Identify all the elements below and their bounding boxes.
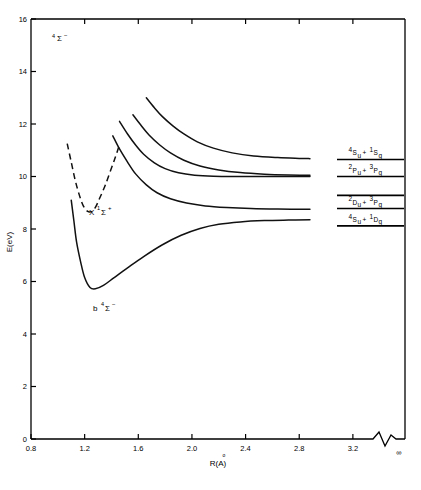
limit-plus-sign: +: [363, 199, 367, 206]
y-tick-label: 2: [23, 382, 27, 391]
limit-right-term: P: [374, 199, 378, 206]
x-axis-title-group: R(A) o: [210, 452, 227, 468]
quartet-state-curve-label: b 4 Σ −: [93, 301, 116, 313]
ground-label-term: Σ: [101, 208, 106, 217]
state-label-term: Σ: [57, 34, 62, 43]
limit-left-term: P: [353, 167, 357, 174]
x-tick-label: 2.0: [187, 444, 197, 453]
y-tick-label: 0: [23, 435, 27, 444]
state-label-charge: −: [64, 32, 68, 38]
ground-label-superscript: 1: [97, 205, 100, 211]
y-tick-label: 6: [23, 277, 27, 286]
limit-plus-sign: +: [363, 216, 367, 223]
potential-energy-figure: 0246810121416 0.81.21.62.02.42.83.2 4Su+…: [0, 0, 421, 490]
x-axis-ticks: [31, 434, 353, 439]
quartet-label-prefix: b: [93, 304, 98, 313]
y-tick-label: 12: [19, 120, 27, 129]
limit-right-subscript: g: [379, 201, 383, 209]
plot-frame: [31, 19, 405, 446]
y-axis-tick-labels: 0246810121416: [19, 15, 27, 444]
ground-label-prefix: X: [89, 208, 95, 217]
curve-b-4: [71, 200, 310, 289]
y-tick-label: 14: [19, 67, 27, 76]
ground-label-charge: +: [108, 205, 112, 211]
curve-repulsive-4: [146, 98, 310, 159]
figure-svg: 0246810121416 0.81.21.62.02.42.83.2 4Su+…: [0, 0, 421, 490]
quartet-label-charge: −: [112, 301, 116, 307]
angstrom-ring-glyph: o: [223, 452, 226, 458]
x-tick-label: 0.8: [26, 444, 36, 453]
curve-x-1: [67, 144, 119, 212]
ground-state-curve-label: X 1 Σ +: [89, 205, 112, 217]
limit-left-subscript: u: [358, 169, 362, 176]
limit-right-subscript: g: [379, 152, 383, 160]
dissociation-level-label: 2Du+3Pg: [349, 195, 383, 208]
y-axis-title: E(eV): [5, 231, 14, 252]
dissociation-level-label: 4Su+1Dg: [349, 213, 383, 226]
quartet-label-superscript: 4: [101, 301, 104, 307]
limit-right-subscript: g: [379, 218, 383, 226]
limit-left-subscript: u: [358, 201, 362, 208]
limit-right-term: P: [374, 167, 378, 174]
x-tick-label: 1.2: [79, 444, 89, 453]
y-tick-label: 8: [23, 225, 27, 234]
limit-right-subscript: g: [379, 169, 383, 177]
y-tick-label: 10: [19, 172, 27, 181]
x-tick-label: 2.4: [240, 444, 250, 453]
dissociation-level-label: 2Pu+3Pg: [349, 163, 383, 176]
state-label-group: 4 Σ −: [52, 32, 68, 43]
dissociation-limit-labels: 4Su+1Sg2Pu+3Pg2Du+3Pg4Su+1Dg: [349, 146, 383, 226]
state-label-superscript: 4: [52, 33, 55, 39]
x-axis-infinity-label: ∞: [396, 448, 401, 457]
quartet-label-term: Σ: [105, 304, 110, 313]
x-tick-label: 1.6: [133, 444, 143, 453]
limit-left-subscript: u: [358, 218, 362, 225]
x-tick-label: 2.8: [294, 444, 304, 453]
y-tick-label: 16: [19, 15, 27, 24]
limit-plus-sign: +: [363, 149, 367, 156]
potential-curves: [67, 98, 310, 289]
x-axis-title: R(A): [210, 459, 227, 468]
limit-left-subscript: u: [358, 152, 362, 159]
limit-plus-sign: +: [363, 167, 367, 174]
x-axis-tick-labels: 0.81.21.62.02.42.83.2: [26, 444, 358, 453]
top-axis-ticks: [85, 19, 353, 24]
y-tick-label: 4: [23, 330, 27, 339]
x-tick-label: 3.2: [348, 444, 358, 453]
dissociation-level-label: 4Su+1Sg: [349, 146, 383, 159]
y-axis-ticks: [31, 19, 36, 439]
